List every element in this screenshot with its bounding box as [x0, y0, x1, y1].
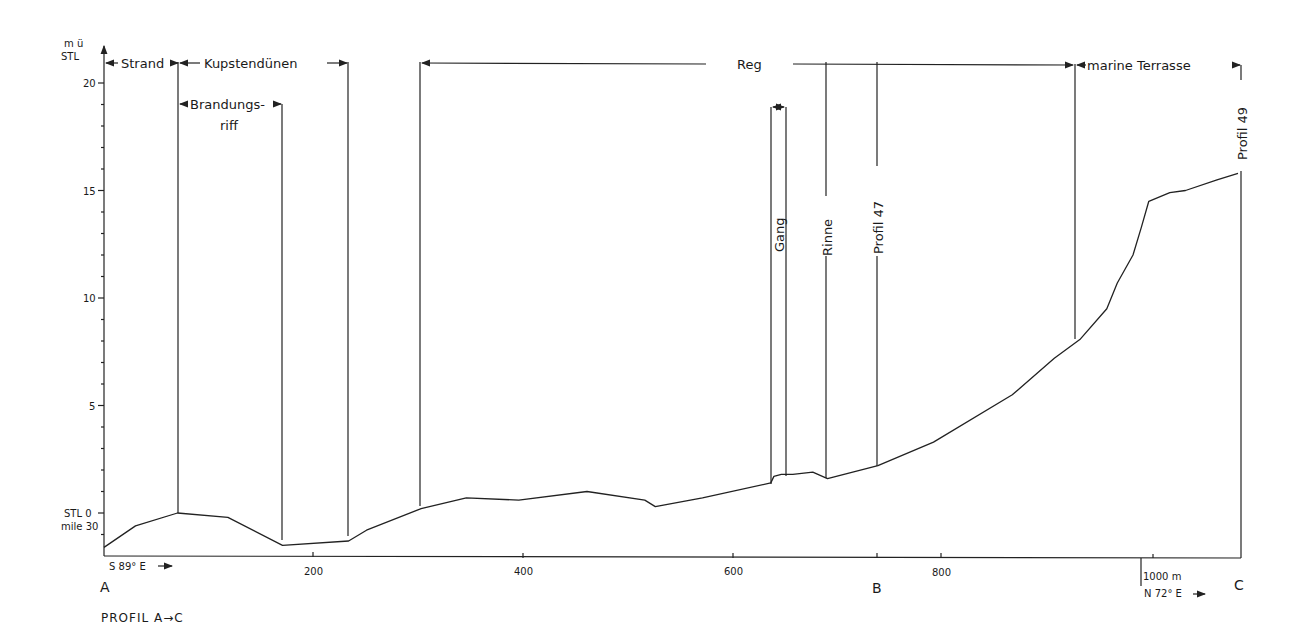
point-label-b: B	[872, 580, 882, 596]
zone-label-marine-terrasse: marine Terrasse	[1087, 58, 1191, 73]
rinne-marker: Rinne	[819, 196, 835, 256]
y-axis-label-top: m ü	[64, 38, 83, 49]
marker-label-gang: Gang	[772, 217, 787, 252]
y-axis: m ü STL 20 15 10 5 STL 0 mile 30	[61, 38, 104, 556]
y-axis-ticks	[98, 83, 104, 535]
zone-boundaries	[178, 62, 1241, 558]
x-tick-label-200: 200	[304, 566, 323, 577]
x-tick-label-400: 400	[514, 566, 533, 577]
zone-strand: Strand	[106, 56, 178, 71]
y-tick-label-5: 5	[89, 401, 95, 412]
x-axis: 200 400 600 800 1000 m S 89° E N 72° E A…	[100, 552, 1244, 625]
marker-label-rinne: Rinne	[820, 219, 835, 256]
zone-marine-terrasse: marine Terrasse	[1077, 58, 1241, 80]
zone-label-kupstendunen: Kupstendünen	[204, 56, 297, 71]
zone-label-riff: riff	[220, 118, 239, 133]
zone-reg: Reg	[422, 57, 1073, 72]
chart-title: PROFIL A→C	[101, 611, 184, 625]
profil49-marker: Profil 49	[1234, 80, 1250, 170]
zone-label-strand: Strand	[121, 56, 164, 71]
zone-kupstendunen: Kupstendünen	[180, 56, 347, 71]
point-label-a: A	[100, 579, 110, 595]
zone-label-brandungs: Brandungs-	[190, 97, 265, 112]
marker-label-profil49: Profil 49	[1235, 107, 1250, 160]
y-tick-sublabel-mile30: mile 30	[61, 521, 98, 532]
marker-label-profil47: Profil 47	[871, 201, 886, 254]
y-tick-label-10: 10	[83, 293, 96, 304]
y-tick-label-15: 15	[83, 186, 96, 197]
y-tick-label-20: 20	[83, 78, 96, 89]
y-tick-label-0: STL 0	[64, 508, 92, 519]
elevation-profile-chart: m ü STL 20 15 10 5 STL 0 mile 30 200 400…	[0, 0, 1316, 641]
direction-label-end: N 72° E	[1144, 588, 1182, 599]
gang-marker: Gang	[772, 107, 787, 252]
y-axis-label-bottom: STL	[61, 51, 79, 62]
terrain-profile-line	[104, 173, 1238, 547]
x-tick-label-800: 800	[932, 567, 951, 578]
zone-label-reg: Reg	[737, 57, 762, 72]
x-tick-label-1000: 1000 m	[1143, 571, 1181, 582]
zone-brandungsriff: Brandungs- riff	[180, 97, 281, 133]
profil47-marker: Profil 47	[870, 166, 886, 256]
direction-label-start: S 89° E	[109, 561, 146, 572]
x-tick-label-600: 600	[724, 566, 743, 577]
point-label-c: C	[1234, 577, 1244, 593]
